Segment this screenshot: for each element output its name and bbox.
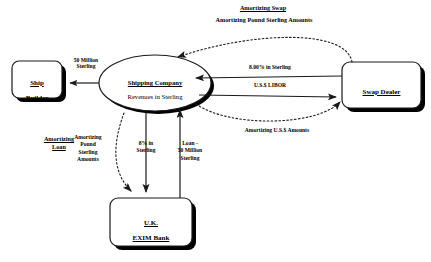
edge-swap-fixed-leg	[196, 76, 342, 78]
edge-label-amortizing-gbp-loan: Amortizing Pound Sterling Amounts	[64, 134, 112, 163]
edge-label-ship-payment: 50 Million Sterling	[62, 57, 110, 69]
edge-amortizing-gbp-swap	[178, 37, 352, 62]
diagram-graphics	[0, 0, 431, 262]
exim-bank-line1: U.K.	[144, 219, 158, 227]
shipping-company-label: Shipping Company Revenues in Sterling	[99, 72, 211, 100]
ship-builder-line2: Builder	[26, 94, 49, 102]
shipping-company-line2: Revenues in Sterling	[128, 93, 183, 100]
shipping-company-line1: Shipping Company	[128, 79, 182, 86]
edge-label-loan-principal: Loan - 50 Million Sterling	[164, 140, 216, 162]
swap-dealer-line1: Swap Dealer	[363, 88, 401, 96]
edge-amortizing-usd	[196, 102, 340, 121]
swap-dealer-label: Swap Dealer	[342, 81, 421, 96]
edge-label-swap-floating-leg: U.S.$ LIBOR	[234, 82, 306, 88]
exim-bank-line2: EXIM Bank	[133, 234, 170, 242]
edge-label-swap-fixed-leg: 8.00% in Sterling	[226, 64, 314, 70]
amortizing-swap-subtitle: Amortizing Pound Sterling Amounts	[190, 17, 338, 24]
amortizing-swap-title: Amortizing Swap	[203, 5, 323, 12]
edge-label-loan-interest: 8% in Sterling	[124, 140, 168, 155]
ship-builder-line1: Ship	[30, 79, 44, 87]
exim-bank-label: U.K. EXIM Bank	[110, 212, 192, 242]
edge-swap-floating-leg	[199, 95, 336, 97]
diagram-canvas: Ship Builder Shipping Company Revenues i…	[0, 0, 431, 262]
edge-label-amortizing-usd: Amortizing U.S.$ Amounts	[222, 127, 332, 133]
ship-builder-label: Ship Builder	[12, 72, 62, 102]
